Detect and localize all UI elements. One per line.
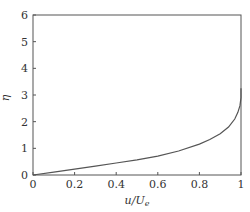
y-tick-label: 0 [21,169,28,182]
x-tick-labels: 00.20.40.60.81 [30,178,245,191]
y-axis-label: η [0,94,12,101]
ticks [33,15,241,175]
y-tick-label: 5 [21,36,28,49]
velocity-profile-curve [33,88,241,175]
y-tick-label: 4 [21,62,28,75]
x-tick-label: 1 [238,178,245,191]
chart: 00.20.40.60.81 0123456 η u/Ue [0,0,250,212]
x-tick-label: 0 [30,178,37,191]
y-tick-label: 1 [21,142,28,155]
y-tick-label: 6 [21,9,28,22]
x-tick-label: 0.6 [149,178,167,191]
x-axis-label: u/Ue [125,194,150,208]
y-tick-labels: 0123456 [21,9,28,182]
x-tick-label: 0.2 [66,178,84,191]
y-tick-label: 2 [21,116,28,129]
plot-frame [33,15,241,175]
x-tick-label: 0.8 [191,178,209,191]
x-tick-label: 0.4 [107,178,125,191]
y-tick-label: 3 [21,89,28,102]
